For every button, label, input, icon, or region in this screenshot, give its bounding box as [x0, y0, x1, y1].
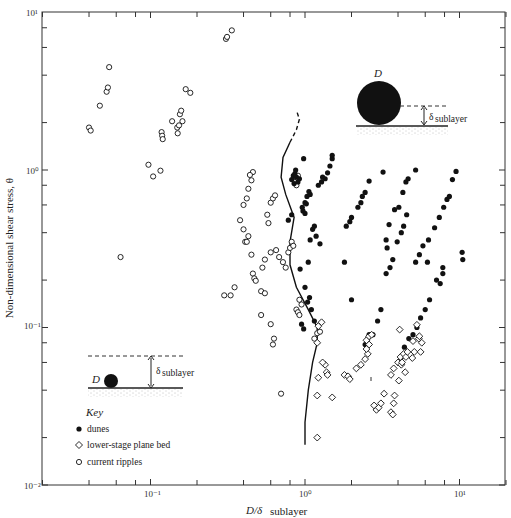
open-circle-marker — [188, 90, 193, 95]
open-diamond-marker — [390, 400, 397, 407]
open-diamond-marker — [402, 369, 409, 376]
x-tick-label-2: 10¹ — [454, 489, 466, 499]
open-circle-marker — [283, 265, 288, 270]
y-tick-label-0: 10⁻² — [24, 481, 41, 491]
filled-circle-marker — [309, 307, 314, 312]
svg-text:current ripples: current ripples — [87, 457, 142, 467]
open-circle-marker — [291, 243, 296, 248]
filled-circle-marker — [399, 230, 404, 235]
filled-circle-marker — [447, 194, 452, 199]
open-circle-marker — [277, 254, 282, 259]
filled-circle-marker — [317, 241, 322, 246]
filled-circle-marker — [308, 237, 313, 242]
legend-title: Key — [85, 406, 103, 418]
open-circle-marker — [244, 196, 249, 201]
open-circle-marker — [262, 257, 267, 262]
boundary-curve — [281, 142, 317, 445]
open-circle-marker — [229, 28, 234, 33]
open-diamond-marker — [391, 392, 398, 399]
svg-text:D/δ: D/δ — [245, 504, 263, 516]
open-circle-marker — [259, 312, 264, 317]
filled-circle-marker — [342, 260, 347, 265]
filled-circle-marker — [385, 245, 390, 250]
filled-circle-marker — [355, 205, 360, 210]
filled-circle-marker — [440, 265, 445, 270]
filled-circle-marker — [307, 295, 312, 300]
filled-circle-marker — [425, 260, 430, 265]
x-axis-title-main: D/δ — [245, 504, 263, 516]
open-circle-marker — [105, 85, 110, 90]
open-circle-marker — [247, 172, 252, 177]
open-circle-marker — [183, 87, 188, 92]
open-circle-marker — [151, 174, 156, 179]
data-points — [86, 28, 465, 441]
filled-circle-marker — [386, 222, 391, 227]
filled-circle-marker — [325, 170, 330, 175]
filled-circle-marker — [427, 297, 432, 302]
open-circle-marker — [297, 312, 302, 317]
filled-circle-marker — [305, 299, 310, 304]
filled-circle-marker — [293, 167, 298, 172]
x-tick-label-0: 10⁻¹ — [144, 489, 161, 499]
filled-circle-marker — [426, 237, 431, 242]
open-circle-marker — [249, 178, 254, 183]
open-diamond-marker — [396, 326, 403, 333]
svg-text:lower-stage plane bed: lower-stage plane bed — [87, 440, 170, 450]
open-circle-marker — [244, 239, 249, 244]
scatter-chart: 10⁻¹ 10⁰ 10¹ 10⁻² 10⁻¹ 10⁰ 10¹ Non-dimen… — [0, 0, 511, 518]
filled-circle-marker — [297, 176, 302, 181]
filled-circle-marker — [378, 307, 383, 312]
open-circle-marker — [107, 65, 112, 70]
filled-circle-marker — [330, 153, 335, 158]
svg-text:dunes: dunes — [87, 424, 109, 434]
filled-circle-marker — [460, 250, 465, 255]
legend-item-ripples: current ripples — [76, 457, 142, 467]
filled-circle-marker — [360, 194, 365, 199]
filled-circle-marker — [367, 179, 372, 184]
inset-lower-delta: δ — [156, 366, 161, 376]
filled-circle-marker — [395, 239, 400, 244]
x-axis-title: D/δ sublayer — [245, 504, 308, 517]
legend: Key dunes lower-stage plane bed current … — [76, 406, 171, 467]
open-diamond-marker — [314, 392, 321, 399]
open-diamond-icon — [76, 442, 83, 449]
filled-circle-marker — [423, 307, 428, 312]
inset-large-grain: D δ sublayer — [356, 67, 468, 135]
x-tick-label-1: 10⁰ — [299, 489, 312, 499]
open-circle-marker — [158, 168, 163, 173]
open-circle-marker — [260, 265, 265, 270]
open-diamond-marker — [388, 372, 395, 379]
open-circle-marker — [228, 293, 233, 298]
open-circle-marker — [237, 218, 242, 223]
open-circle-marker — [241, 202, 246, 207]
inset-upper-delta-sub: sublayer — [435, 114, 468, 124]
filled-circle-marker — [437, 215, 442, 220]
filled-circle-marker — [390, 257, 395, 262]
open-diamond-marker — [315, 374, 322, 381]
filled-circle-marker — [286, 218, 291, 223]
open-circle-marker — [299, 302, 304, 307]
open-circle-marker — [232, 285, 237, 290]
inset-upper-grain-label: D — [373, 67, 382, 79]
y-tick-label-2: 10⁰ — [26, 166, 39, 176]
y-axis-labels: 10⁻² 10⁻¹ 10⁰ 10¹ — [24, 8, 41, 491]
open-circle-marker — [97, 103, 102, 108]
x-axis-labels: 10⁻¹ 10⁰ 10¹ — [144, 489, 466, 499]
filled-circle-marker — [327, 163, 332, 168]
open-circle-marker — [272, 193, 277, 198]
open-circle-marker — [180, 119, 185, 124]
open-circle-marker — [273, 248, 278, 253]
filled-circle-marker — [420, 243, 425, 248]
filled-circle-marker — [384, 271, 389, 276]
inset-small-grain: D δ sublayer — [88, 356, 195, 397]
filled-circle-marker — [413, 260, 418, 265]
open-circle-marker — [262, 291, 267, 296]
open-circle-marker — [278, 391, 283, 396]
open-circle-marker — [246, 186, 251, 191]
open-diamond-marker — [417, 348, 424, 355]
filled-circle-marker — [406, 176, 411, 181]
filled-circle-marker — [441, 205, 446, 210]
open-circle-marker — [268, 250, 273, 255]
filled-circle-marker — [302, 285, 307, 290]
open-circle-marker — [179, 108, 184, 113]
